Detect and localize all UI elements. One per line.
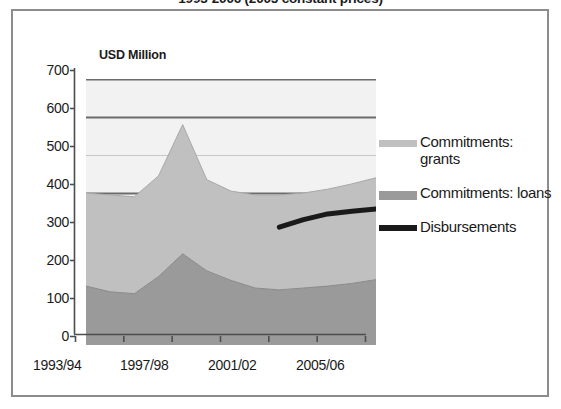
chart-title: 1993-2006 (2005 constant prices)	[0, 0, 561, 7]
stacked-area-plot	[86, 79, 376, 345]
chart-legend: Commitments: grants Commitments: loans D…	[379, 133, 554, 252]
y-tick-label-700: 700	[23, 62, 69, 78]
x-tick-label-2001-02: 2001/02	[208, 357, 257, 373]
area-commitments-grants	[86, 125, 376, 294]
y-tick-label-200: 200	[23, 252, 69, 268]
legend-item-commitments-loans: Commitments: loans	[379, 184, 554, 201]
legend-item-commitments-grants: Commitments: grants	[379, 133, 554, 167]
chart-figure-frame: USD Million 700 600 500 400 300 200 100 …	[11, 9, 549, 397]
y-tick-label-400: 400	[23, 176, 69, 192]
gridlines	[86, 80, 376, 194]
y-tick-label-500: 500	[23, 138, 69, 154]
legend-swatch-grants-icon	[379, 140, 417, 147]
legend-swatch-disbursements-icon	[379, 225, 417, 231]
y-tick-label-300: 300	[23, 214, 69, 230]
y-tick-label-0: 0	[23, 328, 69, 344]
legend-label-loans: Commitments: loans	[420, 184, 551, 201]
total-commitments-outline	[86, 125, 376, 197]
y-axis-unit-label: USD Million	[99, 48, 166, 62]
x-tick-label-1997-98: 1997/98	[120, 357, 169, 373]
plot-area	[86, 79, 376, 345]
x-tick-label-1993-94: 1993/94	[33, 357, 82, 373]
legend-label-disbursements: Disbursements	[420, 218, 516, 235]
legend-label-grants: Commitments: grants	[420, 133, 554, 167]
y-tick-label-100: 100	[23, 290, 69, 306]
y-axis-ticks	[70, 71, 75, 337]
legend-item-disbursements: Disbursements	[379, 218, 554, 235]
y-tick-label-600: 600	[23, 100, 69, 116]
x-tick-label-2005-06: 2005/06	[296, 357, 345, 373]
legend-swatch-loans-icon	[379, 191, 417, 200]
